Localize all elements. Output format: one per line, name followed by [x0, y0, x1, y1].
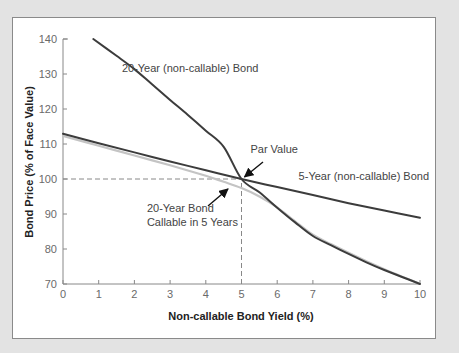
- x-tick-label: 2: [131, 288, 137, 300]
- annotation-20-year-bond: 20-Year (non-callable) Bond: [122, 62, 259, 74]
- reference-lines: [63, 179, 242, 284]
- x-tick-label: 5: [238, 288, 244, 300]
- x-axis-title: Non-callable Bond Yield (%): [168, 310, 314, 322]
- y-tick-label: 120: [39, 103, 57, 115]
- callable-arrow: [208, 189, 228, 206]
- x-tick-label: 1: [96, 288, 102, 300]
- bond-price-chart: 708090100110120130140012345678910 20-Yea…: [0, 0, 459, 353]
- y-tick-label: 110: [39, 138, 57, 150]
- annotations: 20-Year (non-callable) BondPar Value5-Ye…: [122, 62, 429, 228]
- x-tick-label: 4: [203, 288, 209, 300]
- line-20-year-noncallable: [93, 39, 420, 284]
- x-tick-label: 7: [310, 288, 316, 300]
- y-tick-label: 90: [45, 208, 57, 220]
- x-tick-label: 6: [274, 288, 280, 300]
- y-tick-label: 100: [39, 173, 57, 185]
- y-tick-label: 130: [39, 68, 57, 80]
- y-tick-label: 70: [45, 278, 57, 290]
- x-tick-label: 8: [346, 288, 352, 300]
- y-tick-label: 80: [45, 243, 57, 255]
- y-axis-title: Bond Price (% of Face Value): [23, 86, 35, 238]
- annotation-5-year-bond: 5-Year (non-callable) Bond: [299, 170, 429, 182]
- x-tick-label: 3: [167, 288, 173, 300]
- y-tick-label: 140: [39, 33, 57, 45]
- par-value-arrow: [245, 162, 264, 177]
- annotation-par-value: Par Value: [250, 143, 297, 155]
- annotation-callable-line1: 20-Year Bond: [147, 202, 214, 214]
- x-tick-label: 10: [414, 288, 426, 300]
- x-tick-label: 0: [60, 288, 66, 300]
- x-tick-label: 9: [381, 288, 387, 300]
- annotation-callable-line2: Callable in 5 Years: [147, 216, 239, 228]
